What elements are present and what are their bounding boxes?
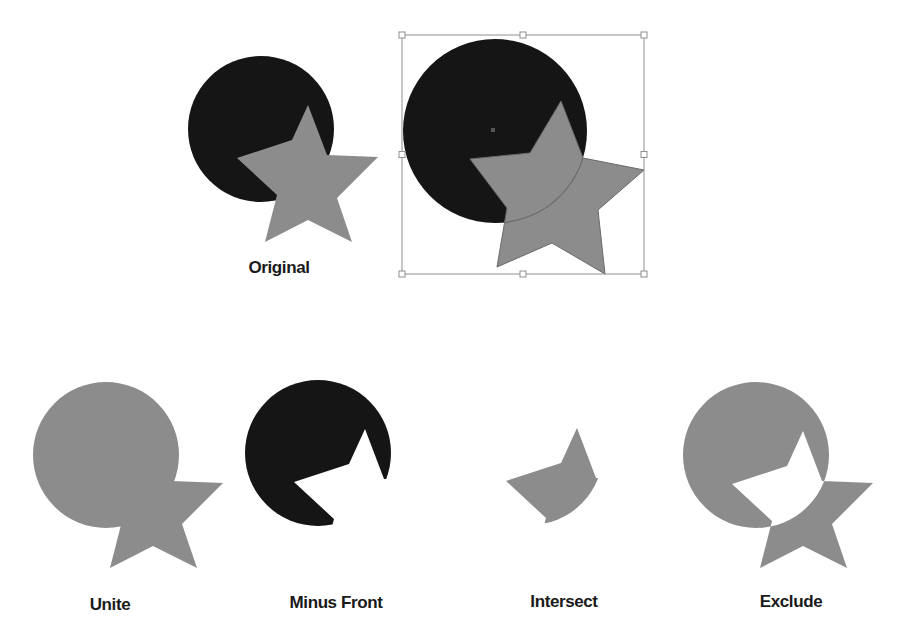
minus-front-result: [245, 380, 391, 526]
pathfinder-diagram: Original Unite Minus Front Intersect Exc…: [0, 0, 913, 641]
figure-minus-front: [245, 380, 391, 526]
resize-handle[interactable]: [399, 32, 405, 38]
center-point-marker: [491, 128, 495, 132]
shapes-canvas: [0, 0, 913, 641]
figure-intersect: [506, 428, 647, 565]
resize-handle[interactable]: [641, 271, 647, 277]
label-unite: Unite: [90, 595, 131, 615]
intersect-result: [506, 428, 647, 565]
figure-original: [188, 56, 378, 242]
label-intersect: Intersect: [530, 592, 597, 612]
resize-handle[interactable]: [641, 152, 647, 158]
resize-handle[interactable]: [520, 32, 526, 38]
exclude-result: [683, 382, 873, 568]
figure-exclude: [683, 382, 873, 568]
figure-selected: [399, 32, 647, 277]
label-minus-front: Minus Front: [290, 593, 383, 613]
resize-handle[interactable]: [520, 271, 526, 277]
resize-handle[interactable]: [641, 32, 647, 38]
label-original: Original: [248, 258, 309, 278]
figure-unite: [33, 382, 223, 568]
resize-handle[interactable]: [399, 152, 405, 158]
resize-handle[interactable]: [399, 271, 405, 277]
label-exclude: Exclude: [760, 592, 822, 612]
